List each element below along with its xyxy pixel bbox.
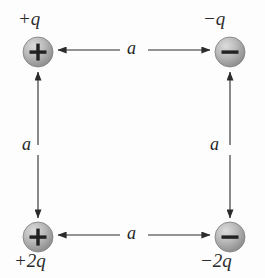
charge-label-top-left: +q xyxy=(18,8,40,30)
charge-sphere-bottom-left xyxy=(23,222,53,252)
dimension-label-right: a xyxy=(210,134,219,155)
charge-label-bottom-right: −2q xyxy=(200,250,232,272)
charge-sphere-top-left xyxy=(23,37,53,67)
charge-square-diagram: +q −q +2q −2q a a a a xyxy=(0,0,265,278)
dimension-label-bottom: a xyxy=(127,223,136,244)
charge-sphere-top-right xyxy=(215,37,245,67)
charge-label-top-right: −q xyxy=(203,8,225,30)
charge-sphere-bottom-right xyxy=(215,222,245,252)
charge-label-bottom-left: +2q xyxy=(14,250,46,272)
dimension-label-top: a xyxy=(127,38,136,59)
dimension-label-left: a xyxy=(22,134,31,155)
